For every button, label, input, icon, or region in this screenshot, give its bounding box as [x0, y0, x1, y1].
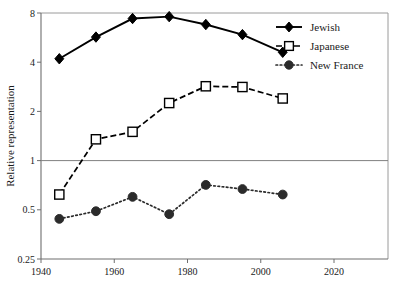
- data-point-jewish-1985: [201, 19, 210, 29]
- data-point-jewish-1965: [128, 13, 137, 23]
- data-point-new-france-1975: [165, 210, 174, 219]
- y-tick-label: 4: [30, 57, 35, 68]
- data-point-japanese-1955: [91, 135, 100, 144]
- data-point-japanese-1985: [201, 82, 210, 91]
- data-point-new-france-1965: [128, 192, 137, 201]
- y-tick-label: 0.25: [18, 254, 36, 265]
- x-tick-label: 2000: [251, 266, 271, 277]
- x-tick-label: 2020: [324, 266, 344, 277]
- y-tick-label: 8: [30, 8, 35, 19]
- legend-label-new-france: New France: [310, 59, 364, 71]
- data-point-jewish-1945: [55, 54, 64, 64]
- data-point-new-france-1985: [201, 181, 210, 190]
- data-point-jewish-1995: [238, 29, 247, 39]
- data-point-japanese-1995: [238, 82, 247, 91]
- data-point-new-france-1995: [238, 185, 247, 194]
- data-point-japanese-1975: [165, 98, 174, 107]
- data-point-japanese-2006: [278, 94, 287, 103]
- y-tick-label: 2: [30, 106, 35, 117]
- legend-marker-jewish: [285, 22, 293, 32]
- data-point-new-france-1945: [55, 214, 64, 223]
- chart-container: 0.250.5124819401960198020002020Relative …: [0, 0, 417, 291]
- legend-marker-japanese: [285, 42, 294, 51]
- legend-label-jewish: Jewish: [310, 21, 340, 33]
- y-tick-label: 0.5: [23, 204, 36, 215]
- y-axis-title: Relative representation: [4, 85, 16, 187]
- data-point-new-france-1955: [92, 207, 101, 216]
- data-point-new-france-2006: [278, 190, 287, 199]
- data-point-japanese-1965: [128, 127, 137, 136]
- data-point-japanese-1945: [55, 190, 64, 199]
- y-tick-label: 1: [30, 155, 35, 166]
- legend-label-japanese: Japanese: [310, 40, 349, 52]
- line-chart: 0.250.5124819401960198020002020Relative …: [0, 0, 417, 291]
- x-tick-label: 1960: [104, 266, 124, 277]
- x-tick-label: 1980: [178, 266, 198, 277]
- data-point-jewish-1955: [91, 32, 100, 42]
- legend-marker-new-france: [285, 61, 293, 69]
- x-tick-label: 1940: [31, 266, 51, 277]
